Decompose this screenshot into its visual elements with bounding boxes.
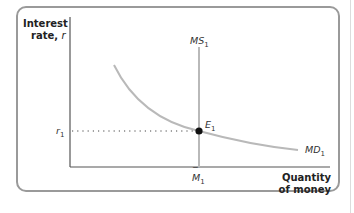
equilibrium-label: E1 (205, 119, 215, 133)
y-axis-label-line1: Interest (23, 18, 68, 29)
equilibrium-point (195, 127, 202, 134)
ms-label: MS1 (190, 35, 209, 49)
x-axis-label-line1: Quantity (282, 172, 331, 183)
money-demand-curve (114, 65, 298, 150)
m1-bar-mark: ‾ (192, 165, 198, 176)
x-axis-label-line2: of money (279, 184, 332, 195)
r1-label: r1 (56, 125, 64, 139)
md-label: MD1 (305, 144, 325, 158)
money-market-diagram: Interest rate, r Quantity of money MS1 M… (0, 0, 354, 213)
y-axis-label-line2: rate, r (31, 30, 67, 41)
